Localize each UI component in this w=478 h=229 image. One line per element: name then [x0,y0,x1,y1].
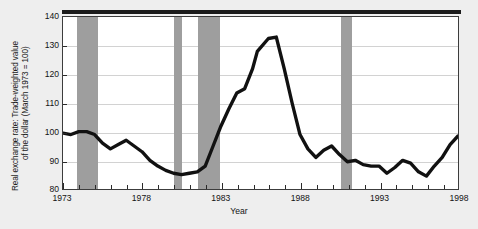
y-tick-label-100: 100 [33,128,59,137]
x-tick-label-1973: 1973 [42,193,82,203]
x-tick-mark-1987 [285,185,286,189]
y-tick-mark-130 [63,46,67,47]
x-tick-mark-1984 [238,185,239,189]
x-tick-mark-1993 [381,183,382,189]
x-tick-mark-1995 [412,185,413,189]
y-tick-mark-120 [63,75,67,76]
x-tick-mark-1975 [95,185,96,189]
y-tick-label-120: 120 [33,70,59,79]
x-axis-title: Year [0,206,478,216]
x-tick-mark-1994 [396,185,397,189]
x-tick-mark-1982 [206,185,207,189]
y-tick-label-130: 130 [33,41,59,50]
figure-container: Real exchange rate: Trade-weighted value… [0,0,478,229]
plot-area [62,16,459,190]
y-tick-mark-110 [63,104,67,105]
x-tick-mark-1992 [365,185,366,189]
y-tick-mark-100 [63,133,67,134]
y-tick-mark-90 [63,162,67,163]
y-axis-title-line-1: Real exchange rate: Trade-weighted value [11,41,20,191]
x-tick-mark-1973 [63,183,64,189]
x-tick-mark-1989 [317,185,318,189]
y-axis-title-line-2: of the dollar (March 1973 = 100) [21,46,30,160]
x-tick-label-1993: 1993 [360,193,400,203]
x-tick-label-1983: 1983 [201,193,241,203]
x-tick-mark-1979 [158,185,159,189]
x-tick-mark-1996 [428,185,429,189]
x-tick-mark-1986 [269,185,270,189]
top-rule [62,10,461,14]
x-tick-label-1988: 1988 [280,193,320,203]
y-axis-title: Real exchange rate: Trade-weighted value… [0,0,30,200]
x-tick-mark-1980 [174,185,175,189]
x-tick-mark-1976 [111,185,112,189]
x-tick-label-1978: 1978 [121,193,161,203]
x-tick-mark-1990 [333,185,334,189]
x-tick-mark-1988 [301,183,302,189]
y-tick-label-90: 90 [33,157,59,166]
x-tick-mark-1977 [127,185,128,189]
x-tick-mark-1983 [222,183,223,189]
x-tick-mark-1974 [79,185,80,189]
x-tick-mark-1978 [142,183,143,189]
figure-caption [0,220,478,229]
x-tick-label-1998: 1998 [439,193,478,203]
y-tick-label-140: 140 [33,12,59,21]
data-series-line [63,17,458,189]
y-tick-label-110: 110 [33,99,59,108]
x-tick-mark-1997 [444,185,445,189]
x-tick-mark-1985 [254,185,255,189]
x-tick-mark-1991 [349,185,350,189]
x-tick-mark-1981 [190,185,191,189]
